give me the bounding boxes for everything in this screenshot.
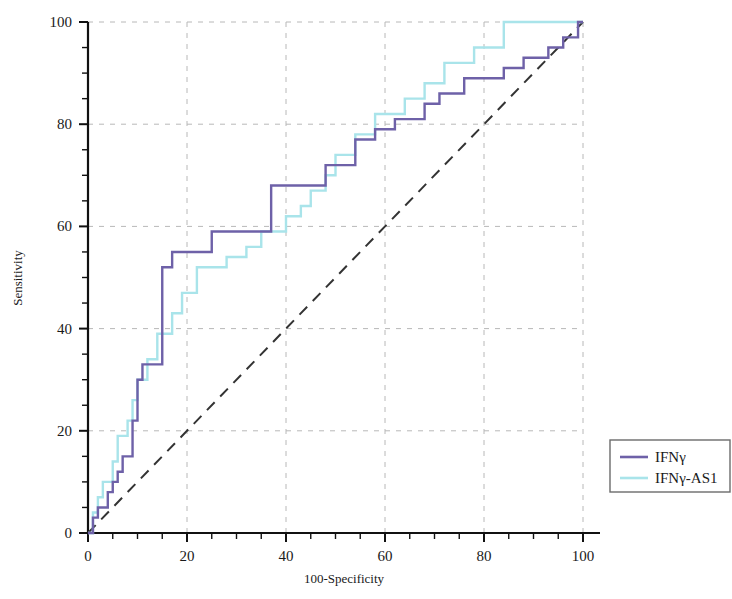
y-tick-label: 100 bbox=[50, 14, 73, 30]
roc-curve-figure: 020406080100020406080100 100-Specificity… bbox=[0, 0, 732, 599]
x-tick-label: 40 bbox=[279, 548, 294, 564]
y-tick-label: 80 bbox=[57, 116, 72, 132]
y-tick-label: 60 bbox=[57, 218, 72, 234]
chart-background bbox=[0, 0, 732, 599]
y-axis-title: Sensitivity bbox=[10, 250, 25, 306]
x-axis-title: 100-Specificity bbox=[304, 571, 385, 586]
x-tick-label: 20 bbox=[180, 548, 195, 564]
legend-label-ifng: IFNγ bbox=[655, 449, 686, 465]
legend-label-ifng-as1: IFNγ-AS1 bbox=[655, 470, 717, 486]
roc-chart-canvas: 020406080100020406080100 100-Specificity… bbox=[0, 0, 732, 599]
y-tick-label: 20 bbox=[57, 423, 72, 439]
chart-legend: IFNγ IFNγ-AS1 bbox=[610, 440, 730, 492]
x-tick-label: 60 bbox=[378, 548, 393, 564]
x-tick-label: 80 bbox=[477, 548, 492, 564]
x-tick-label: 100 bbox=[572, 548, 595, 564]
y-tick-label: 0 bbox=[65, 525, 73, 541]
x-tick-label: 0 bbox=[84, 548, 92, 564]
y-tick-label: 40 bbox=[57, 321, 72, 337]
